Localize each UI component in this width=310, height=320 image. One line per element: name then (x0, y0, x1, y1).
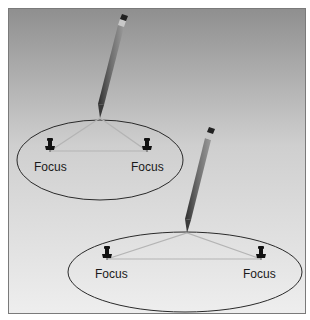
focus-label: Focus (34, 160, 67, 174)
focus-label: Focus (243, 267, 276, 281)
focus-label: Focus (131, 160, 164, 174)
focus-label: Focus (95, 267, 128, 281)
ellipse-foci-diagram: Focus Focus Focus Focus (0, 0, 310, 320)
